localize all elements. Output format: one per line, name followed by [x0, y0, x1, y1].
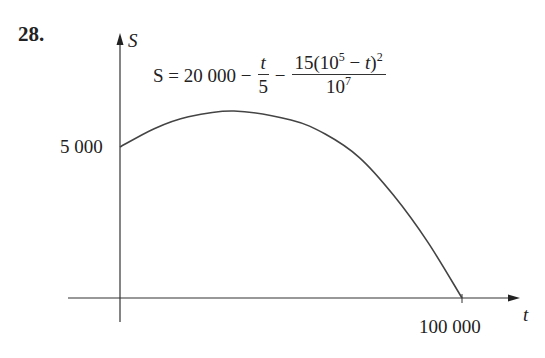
den-exponent: 7 [345, 74, 351, 88]
curve-S-of-t [120, 111, 462, 298]
fraction-denominator: 5 [258, 75, 268, 98]
num-minus: − [345, 52, 365, 73]
fraction-squared-term: 15(105 − t)2 107 [292, 53, 386, 98]
fraction-denominator: 107 [326, 75, 351, 98]
fraction-numerator: t [258, 53, 269, 75]
formula-minus: − [275, 65, 286, 87]
x-axis-label: t [523, 304, 528, 326]
x-axis-arrow-icon [508, 295, 520, 302]
y-tick-label: 5 000 [60, 136, 103, 158]
fraction-t-over-5: t 5 [258, 53, 269, 98]
formula-lhs: S = 20 000 − [153, 65, 252, 87]
fraction-numerator: 15(105 − t)2 [292, 53, 386, 75]
num-part: 15(10 [295, 52, 339, 73]
y-axis-label: S [128, 30, 138, 52]
num-exponent-2: 2 [377, 50, 383, 64]
y-axis-arrow-icon [117, 33, 124, 45]
x-tick-label: 100 000 [419, 316, 481, 338]
formula: S = 20 000 − t 5 − 15(105 − t)2 107 [153, 53, 392, 98]
den-base: 10 [326, 76, 345, 97]
